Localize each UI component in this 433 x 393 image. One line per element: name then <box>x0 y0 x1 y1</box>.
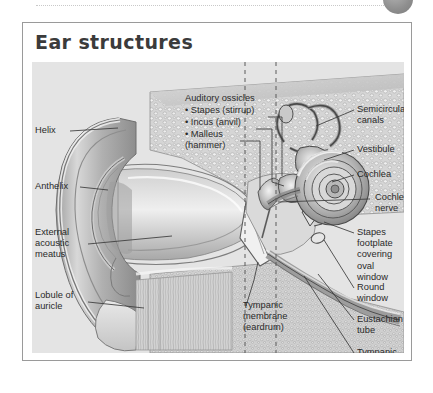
label-cochlea: Cochlea <box>357 169 391 180</box>
page-title: Ear structures <box>35 31 193 53</box>
label-tympanic-membrane: Tympanic membrane (eardrum) <box>243 300 287 334</box>
label-eustachian-tube: Eustachian tube <box>357 314 403 336</box>
top-dotted-rule <box>36 5 396 7</box>
label-round-window: Round window <box>357 282 388 304</box>
label-external-acoustic-meatus: External acoustic meatus <box>35 227 69 261</box>
stapes <box>302 208 316 226</box>
anthelix-fold <box>92 158 124 270</box>
leader-semicircular-canals <box>316 110 354 126</box>
label-stapes: • Stapes (stirrup) <box>185 105 254 116</box>
leader-helix <box>70 128 118 131</box>
stapes-footplate-oval-window <box>314 212 322 226</box>
ear-anatomy-figure: Helix Anthelix External acoustic meatus … <box>32 62 404 353</box>
vestibule <box>296 146 331 180</box>
leader-incus <box>256 129 284 186</box>
corner-circle-badge <box>383 0 413 14</box>
leader-cochlea <box>332 175 354 182</box>
label-semicircular-canals: Semicircular canals <box>357 104 404 126</box>
leader-stapes-footplate <box>324 222 354 233</box>
label-auditory-ossicles-heading: Auditory ossicles <box>185 93 255 104</box>
leader-anthelix <box>80 187 108 190</box>
external-acoustic-meatus-lumen <box>118 169 246 260</box>
leader-malleus <box>240 141 260 190</box>
leader-vestibule <box>324 150 354 160</box>
leader-round-window <box>324 240 354 288</box>
label-stapes-footplate: Stapes footplate covering oval window <box>357 227 404 283</box>
ear-structures-card: Ear structures External ear Middle ear I… <box>22 22 412 361</box>
leader-lobule <box>88 302 144 308</box>
label-malleus: • Malleus (hammer) <box>185 129 225 151</box>
semicircular-canal-ampulla <box>279 105 293 123</box>
semicircular-canals <box>277 104 340 154</box>
cochlea <box>295 151 369 225</box>
leader-tympanic-cavity <box>304 276 354 353</box>
lobule-of-auricle <box>95 300 140 351</box>
cochlear-nerve <box>268 190 300 204</box>
tympanic-cavity <box>246 173 317 254</box>
malleus <box>258 178 282 210</box>
round-window <box>310 231 326 245</box>
label-incus: • Incus (anvil) <box>185 117 241 128</box>
label-anthelix: Anthelix <box>35 181 68 192</box>
tympanic-membrane <box>240 202 270 266</box>
label-cochlear-nerve: Cochlear nerve <box>375 192 404 214</box>
label-vestibule: Vestibule <box>357 144 395 155</box>
label-lobule-of-auricle: Lobule of auricle <box>35 290 73 312</box>
leader-cochlear-nerve <box>278 199 370 202</box>
leader-stapes <box>268 117 282 176</box>
incus <box>278 174 306 203</box>
label-helix: Helix <box>35 125 56 136</box>
leader-eustachian-tube <box>318 274 354 320</box>
label-tympanic-cavity: Tympanic cavity <box>357 347 397 353</box>
leader-external-acoustic-meatus <box>88 236 172 244</box>
lobule-fibrous-tissue <box>136 272 232 350</box>
